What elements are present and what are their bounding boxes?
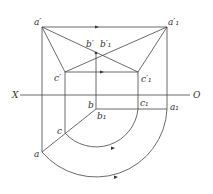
line-a-prime-c1-prime <box>42 27 138 72</box>
arrow-icon <box>114 176 118 180</box>
label-x-axis: X <box>11 90 19 100</box>
label-b: b <box>88 100 94 110</box>
label-b1-prime: b′₁ <box>100 39 111 49</box>
label-a1-prime: a′₁ <box>168 17 179 27</box>
label-c1-prime: c′₁ <box>141 74 152 84</box>
label-a-prime: a′ <box>34 17 41 27</box>
label-b1: b₁ <box>97 111 106 121</box>
arrow-icon <box>100 71 104 74</box>
label-a: a <box>34 149 39 159</box>
arrow-icon <box>111 147 115 151</box>
label-b-prime: b′ <box>86 39 94 49</box>
label-c1: c₁ <box>140 98 149 108</box>
line-b-a <box>42 109 96 152</box>
arrow-icon <box>95 26 99 29</box>
line-a1-prime-c-prime <box>65 27 167 72</box>
label-o-axis: O <box>193 90 201 100</box>
label-c: c <box>57 126 62 136</box>
line-a-prime-c-prime <box>42 27 65 72</box>
label-a1: a₁ <box>170 102 179 112</box>
label-c-prime: c′ <box>54 73 61 83</box>
projection-diagram: a′ a′₁ b′ b′₁ c′ c′₁ X O b b₁ c₁ a₁ c a <box>0 0 213 194</box>
